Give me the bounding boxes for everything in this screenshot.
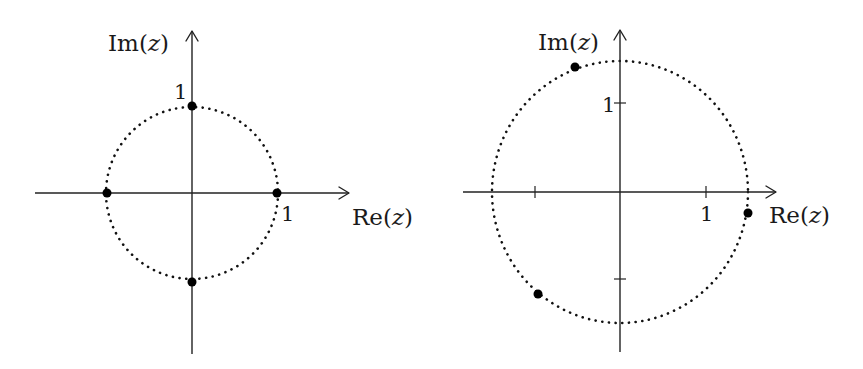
imaginary-unit-label: 1 (602, 93, 615, 117)
imaginary-axis-label: Im(z) (538, 29, 599, 55)
root-point (103, 189, 112, 198)
root-point (744, 209, 753, 218)
imaginary-unit-label: 1 (174, 80, 187, 104)
real-unit-label: 1 (700, 202, 713, 226)
figure-canvas: Im(z) Re(z) 1 1 Im(z) Re(z) 1 1 (0, 0, 863, 369)
real-unit-label: 1 (281, 202, 294, 226)
root-point (571, 63, 580, 72)
root-point (534, 290, 543, 299)
root-point (188, 278, 197, 287)
real-axis-label: Re(z) (769, 202, 830, 228)
imaginary-axis-label: Im(z) (108, 30, 169, 56)
left-diagram: Im(z) Re(z) 1 1 (35, 30, 413, 354)
real-axis-label: Re(z) (352, 204, 413, 230)
root-point (188, 102, 197, 111)
root-point (273, 189, 282, 198)
right-diagram: Im(z) Re(z) 1 1 (463, 29, 830, 352)
